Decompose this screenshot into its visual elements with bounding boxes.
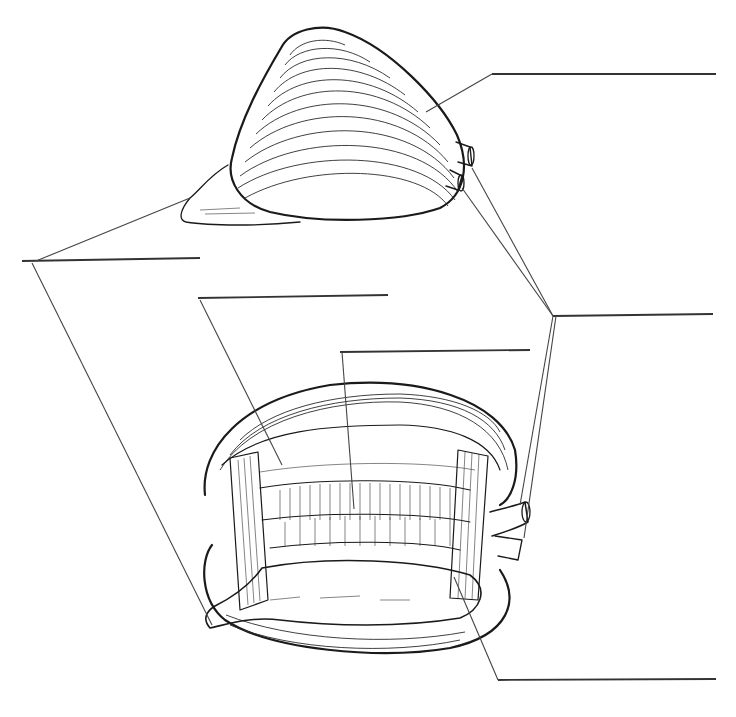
closed-clam (181, 28, 474, 225)
label-line-gills (340, 350, 530, 352)
siphons-closed (446, 142, 474, 191)
label-line-adductor-muscle (498, 679, 716, 680)
adductor-muscles (230, 450, 488, 610)
open-clam (204, 383, 530, 653)
clam-diagram (0, 0, 736, 717)
label-line-mantle (198, 295, 388, 298)
label-line-siphons (553, 314, 713, 316)
siphons-open (490, 502, 530, 560)
gills (260, 481, 470, 550)
clam-illustration (0, 0, 736, 717)
label-line-foot (22, 258, 200, 261)
label-lines (22, 74, 716, 680)
